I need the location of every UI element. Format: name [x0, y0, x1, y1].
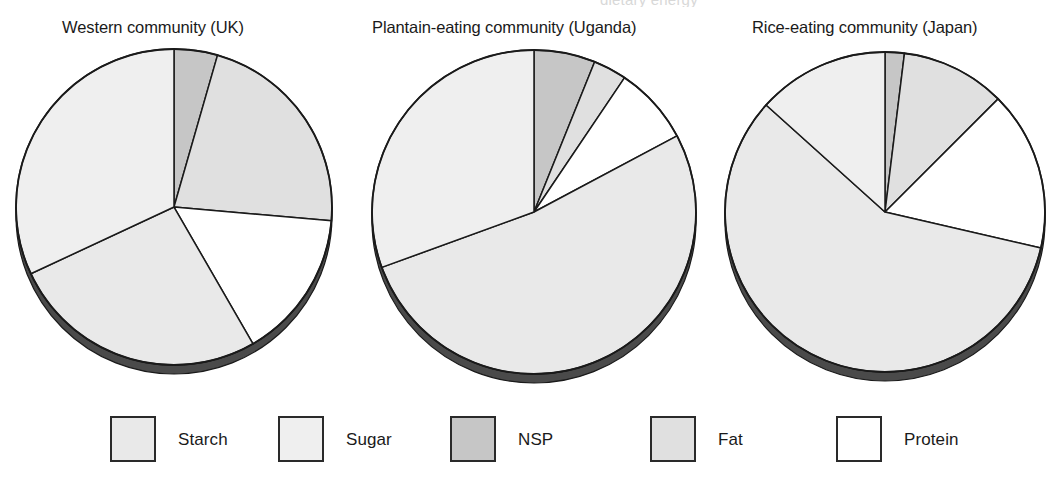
clipped-header-text: dietary energy [600, 0, 1000, 7]
legend-swatch-nsp [450, 416, 496, 462]
legend-label-protein: Protein [904, 430, 959, 450]
pie-chart-japan [711, 38, 1050, 396]
pie-chart-uk [2, 35, 346, 389]
legend-swatch-sugar [278, 416, 324, 462]
chart-title-uganda: Plantain-eating community (Uganda) [372, 18, 636, 37]
legend-label-starch: Starch [178, 430, 228, 450]
legend-swatch-protein [836, 416, 882, 462]
legend-swatch-starch [110, 416, 156, 462]
figure-pie-charts: dietary energy Western community (UK) Pl… [0, 0, 1050, 482]
chart-title-japan: Rice-eating community (Japan) [752, 18, 977, 37]
pie-chart-uganda [358, 36, 710, 398]
legend-label-fat: Fat [718, 430, 743, 450]
legend-label-nsp: NSP [518, 430, 553, 450]
legend-swatch-fat [650, 416, 696, 462]
legend-label-sugar: Sugar [346, 430, 392, 450]
legend: Starch Sugar NSP Fat Protein [0, 408, 1050, 482]
